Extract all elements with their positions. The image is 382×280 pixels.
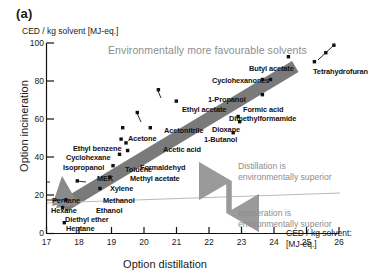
annotation-incineration-line1: Incineration is (238, 208, 332, 219)
x-tick-26: 26 (329, 237, 349, 247)
y-tick-40: 40 (22, 152, 44, 162)
y-tick-80: 80 (22, 76, 44, 86)
annotation-distillation-superior: Distillation is environmentally superior (238, 161, 332, 182)
point-label-acetone: Acetone (128, 134, 156, 143)
x-tick-21: 21 (167, 237, 187, 247)
point-label-tetrahydrofuran: Tetrahydrofuran (313, 67, 368, 76)
x-tick-25: 25 (297, 237, 317, 247)
point-label-butyl-acetate: Butyl acetate (249, 64, 294, 73)
annotation-incineration-superior: Incineration is environmentally superior (238, 208, 332, 229)
point-label-1-propanol: 1-Propanol (208, 95, 246, 104)
point-label-xylene: Xylene (110, 184, 133, 193)
y-tick-100: 100 (22, 38, 44, 48)
point-label-mek: MEK (97, 174, 113, 183)
point-label-ethyl-acetate: Ethyl acetate (182, 105, 226, 114)
point-label-cyclohexanones: Cyclohexanones (212, 76, 269, 85)
y-tick-60: 60 (22, 114, 44, 124)
point-label-methanol: Methanol (103, 196, 135, 205)
point-label-1-butanol: 1-Butanol (204, 135, 237, 144)
point-label-ethanol: Ethanol (96, 206, 122, 215)
point-label-cyclohexane: Cyclohexane (66, 153, 111, 162)
point-label-pentane: Pentane (52, 196, 80, 205)
point-label-isopropanol: Isopropanol (63, 163, 104, 172)
point-label-acetonitrile: Acetonitrile (164, 126, 203, 135)
point-label-heptane: Heptane (66, 224, 94, 233)
figure-panel-a: (a) CED / kg solvent [MJ-eq.] Option inc… (0, 0, 382, 280)
x-tick-18: 18 (69, 237, 89, 247)
point-label-dioxane: Dioxane (212, 125, 240, 134)
annotation-distillation-line2: environmentally superior (238, 172, 332, 183)
point-label-hexane: Hexane (51, 206, 77, 215)
x-tick-17: 17 (37, 237, 57, 247)
x-tick-23: 23 (232, 237, 252, 247)
annotation-distillation-line1: Distillation is (238, 161, 332, 172)
plot-canvas (0, 0, 382, 280)
point-label-formaldehyd: Formaldehyd (140, 163, 185, 172)
point-label-dimethylformamide: Dimethylformamide (229, 114, 296, 123)
annotation-favourable-solvents: Environmentally more favourable solvents (108, 44, 307, 56)
x-tick-22: 22 (199, 237, 219, 247)
x-tick-19: 19 (102, 237, 122, 247)
point-label-diethyl-ether: Diethyl ether (65, 215, 108, 224)
point-label-methyl-acetate: Methyl acetate (130, 174, 180, 183)
point-label-acetic-acid: Acetic acid (163, 145, 201, 154)
annotation-incineration-line2: environmentally superior (238, 219, 332, 230)
y-tick-20: 20 (22, 190, 44, 200)
x-tick-20: 20 (134, 237, 154, 247)
x-tick-24: 24 (264, 237, 284, 247)
point-label-ethyl-benzene: Ethyl benzene (73, 144, 121, 153)
point-label-formic-acid: Formic acid (243, 105, 283, 114)
